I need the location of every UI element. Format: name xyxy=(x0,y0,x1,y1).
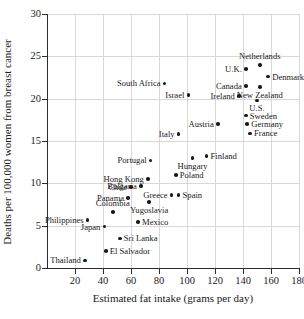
data-point-label: Philippines xyxy=(45,215,84,224)
y-axis-tick xyxy=(42,141,48,142)
data-point xyxy=(118,237,122,241)
y-axis-label-text: Deaths per 100,000 women from breast can… xyxy=(1,39,13,245)
x-axis-tick-label: 180 xyxy=(291,276,304,287)
data-point-label: New Zealand xyxy=(237,91,283,100)
data-point xyxy=(111,210,115,214)
data-point xyxy=(104,249,108,253)
x-axis-tick-label: 120 xyxy=(207,276,223,287)
y-axis-tick-label: 20 xyxy=(31,93,42,104)
data-point-label: Chile xyxy=(108,182,127,191)
data-point xyxy=(255,99,259,103)
x-axis-tick xyxy=(299,268,300,274)
data-point-label: South Africa xyxy=(117,79,161,88)
data-point xyxy=(258,63,262,67)
data-point xyxy=(216,122,220,126)
data-point xyxy=(187,93,191,97)
data-point-label: Sri Lanka xyxy=(124,234,158,243)
y-axis-tick xyxy=(42,183,48,184)
data-point-label: Denmark xyxy=(272,72,304,81)
data-point xyxy=(244,84,248,88)
x-axis-tick-label: 100 xyxy=(179,276,195,287)
data-point-label: Spain xyxy=(183,191,203,200)
data-point xyxy=(244,67,248,71)
x-axis-tick-label: 160 xyxy=(263,276,279,287)
data-point xyxy=(103,225,107,229)
data-point-label: Germany xyxy=(251,120,283,129)
x-axis-tick xyxy=(215,268,216,274)
x-axis-tick xyxy=(131,268,132,274)
x-axis-line xyxy=(47,268,299,269)
x-axis-label: Estimated fat intake (grams per day) xyxy=(47,292,299,304)
y-axis-label: Deaths per 100,000 women from breast can… xyxy=(0,0,16,283)
data-point xyxy=(205,154,209,158)
data-point xyxy=(147,200,151,204)
data-point xyxy=(258,85,262,89)
x-axis-tick xyxy=(159,268,160,274)
x-axis-tick xyxy=(75,268,76,274)
x-axis-tick-label: 60 xyxy=(126,276,137,287)
y-axis-tick xyxy=(42,226,48,227)
data-point-label: Mexico xyxy=(142,218,168,227)
breast-cancer-fat-intake-scatter-chart: Deaths per 100,000 women from breast can… xyxy=(0,0,304,319)
data-point xyxy=(146,177,150,181)
data-point-label: El Salvador xyxy=(110,247,150,256)
data-point-label: Greece xyxy=(143,191,167,200)
data-point xyxy=(149,159,153,163)
data-point-label: France xyxy=(254,129,277,138)
y-axis-tick xyxy=(42,56,48,57)
data-point xyxy=(170,193,174,197)
data-point-label: Ireland xyxy=(210,92,234,101)
data-point-label: Finland xyxy=(211,152,237,161)
data-point xyxy=(177,193,181,197)
data-point xyxy=(191,156,195,160)
data-point-label: Italy xyxy=(159,130,175,139)
data-point xyxy=(237,94,241,98)
data-point-label: Colombia xyxy=(96,200,130,209)
x-axis-tick-label: 140 xyxy=(235,276,251,287)
x-axis-tick xyxy=(243,268,244,274)
y-axis-tick-label: 25 xyxy=(31,51,42,62)
data-point xyxy=(266,75,270,79)
data-point xyxy=(129,185,133,189)
data-point-label: Thailand xyxy=(50,256,81,265)
data-point-label: Yugoslavia xyxy=(130,206,168,215)
data-point xyxy=(174,173,178,177)
y-axis-tick xyxy=(42,268,48,269)
data-point xyxy=(136,220,140,224)
x-axis-tick xyxy=(187,268,188,274)
data-point xyxy=(244,114,248,118)
x-axis-tick-label: 40 xyxy=(98,276,109,287)
data-point-label: Poland xyxy=(180,171,204,180)
x-axis-tick-label: 80 xyxy=(154,276,165,287)
y-axis-tick-label: 0 xyxy=(36,263,41,274)
gridline-vertical xyxy=(299,14,300,268)
data-point xyxy=(177,132,181,136)
data-point-label: Japan xyxy=(81,222,101,231)
x-axis-tick-label: 20 xyxy=(70,276,81,287)
data-point-label: Israel xyxy=(165,91,184,100)
data-point xyxy=(248,132,252,136)
data-point-label: U.K. xyxy=(225,65,242,74)
data-point xyxy=(83,259,87,263)
x-axis-tick xyxy=(103,268,104,274)
data-point xyxy=(139,184,143,188)
gridline-horizontal xyxy=(47,183,299,184)
gridline-horizontal xyxy=(47,141,299,142)
y-axis-tick-label: 30 xyxy=(31,9,42,20)
y-axis-tick-label: 10 xyxy=(31,178,42,189)
y-axis-tick-label: 15 xyxy=(31,136,42,147)
data-point xyxy=(163,82,167,86)
data-point xyxy=(245,122,249,126)
y-axis-tick xyxy=(42,14,48,15)
plot-area: 05101520253020406080100120140160180Nethe… xyxy=(47,14,299,268)
data-point-label: Netherlands xyxy=(239,52,281,61)
gridline-horizontal xyxy=(47,14,299,15)
data-point-label: Portugal xyxy=(117,156,146,165)
y-axis-tick-label: 5 xyxy=(36,220,41,231)
x-axis-tick xyxy=(271,268,272,274)
data-point-label: Austria xyxy=(188,120,213,129)
y-axis-tick xyxy=(42,99,48,100)
